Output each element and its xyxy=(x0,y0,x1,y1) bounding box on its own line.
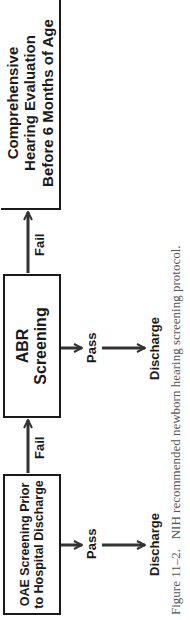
figure-number: Figure 11–2. xyxy=(168,549,183,615)
oae-box-line2: to Hospital Discharge xyxy=(32,480,46,609)
abr-screening-box: ABR Screening xyxy=(3,274,61,418)
figure-caption: Figure 11–2. NIH recommended newborn hea… xyxy=(168,245,184,615)
fail-label-abr: Fail xyxy=(32,234,47,256)
comprehensive-box-line3: Before 6 Months of Age xyxy=(39,19,56,187)
oae-box-line1: OAE Screening Prior xyxy=(18,480,32,609)
discharge-label-abr: Discharge xyxy=(147,317,162,380)
diagram-canvas: OAE Screening Prior to Hospital Discharg… xyxy=(0,0,190,620)
pass-label-oae: Pass xyxy=(84,529,99,559)
figure-caption-text: NIH recommended newborn hearing screenin… xyxy=(168,245,183,539)
abr-box-line1: ABR xyxy=(14,307,32,384)
comprehensive-box-line2: Hearing Evaluation xyxy=(21,19,38,187)
abr-box-line2: Screening xyxy=(32,307,50,384)
pass-label-abr: Pass xyxy=(84,333,99,363)
comprehensive-evaluation-box: Comprehensive Hearing Evaluation Before … xyxy=(1,0,61,210)
comprehensive-box-line1: Comprehensive xyxy=(4,19,21,187)
oae-screening-box: OAE Screening Prior to Hospital Discharg… xyxy=(3,474,61,615)
discharge-label-oae: Discharge xyxy=(147,513,162,576)
fail-label-oae: Fail xyxy=(32,437,47,459)
